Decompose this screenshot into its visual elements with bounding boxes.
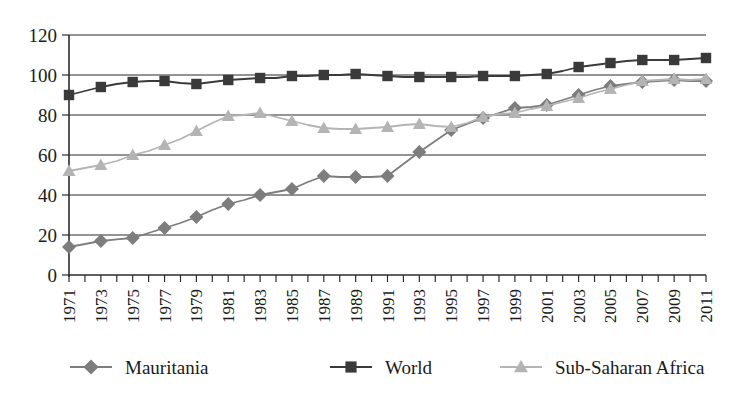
triangle-marker-icon (190, 125, 203, 136)
y-tick-label: 60 (38, 145, 57, 166)
x-tick-label: 1991 (379, 289, 398, 323)
triangle-marker-icon (700, 73, 713, 84)
x-tick-label: 1985 (283, 289, 302, 323)
square-marker-icon (287, 71, 297, 81)
legend-item-mauritania[interactable]: Mauritania (70, 357, 209, 378)
square-marker-icon (605, 58, 615, 68)
diamond-marker-icon (158, 221, 172, 235)
x-tick-label: 2001 (538, 289, 557, 323)
square-marker-icon (382, 71, 392, 81)
x-tick-label: 1993 (410, 289, 429, 323)
square-marker-icon (701, 53, 711, 63)
square-marker-icon (510, 71, 520, 81)
x-tick-label: 1997 (474, 289, 493, 324)
diamond-marker-icon (349, 170, 363, 184)
y-tick-label: 0 (48, 265, 58, 286)
x-tick-label: 1995 (442, 289, 461, 323)
triangle-marker-icon (254, 107, 267, 118)
square-marker-icon (478, 71, 488, 81)
square-marker-icon (64, 90, 74, 100)
x-tick-label: 1981 (219, 289, 238, 323)
square-marker-icon (446, 72, 456, 82)
line-chart: 020406080100120 197119731975197719791981… (0, 0, 732, 399)
diamond-marker-icon (285, 182, 299, 196)
x-tick-label: 1987 (315, 289, 334, 324)
square-marker-icon (345, 361, 356, 372)
x-tick-label: 1983 (251, 289, 270, 323)
x-tick-labels-group: 1971197319751977197919811983198519871989… (60, 289, 716, 324)
diamond-marker-icon (412, 145, 426, 159)
square-marker-icon (255, 73, 265, 83)
x-tick-label: 1973 (92, 289, 111, 323)
x-tick-label: 1977 (156, 289, 175, 324)
diamond-marker-icon (83, 359, 98, 374)
x-tick-label: 2007 (633, 289, 652, 324)
square-marker-icon (542, 69, 552, 79)
diamond-marker-icon (62, 240, 76, 254)
x-tick-label: 2011 (697, 289, 716, 322)
legend-item-sub-saharan-africa[interactable]: Sub-Saharan Africa (500, 357, 705, 378)
x-tick-label: 2003 (570, 289, 589, 323)
diamond-marker-icon (317, 169, 331, 183)
x-axis-group (69, 275, 706, 282)
triangle-marker-icon (413, 118, 426, 129)
legend-label: Mauritania (125, 357, 209, 378)
square-marker-icon (159, 76, 169, 86)
y-tick-label: 80 (38, 105, 57, 126)
diamond-marker-icon (94, 234, 108, 248)
legend-label: Sub-Saharan Africa (555, 357, 705, 378)
square-marker-icon (128, 77, 138, 87)
square-marker-icon (573, 62, 583, 72)
diamond-marker-icon (380, 169, 394, 183)
square-marker-icon (191, 79, 201, 89)
square-marker-icon (96, 82, 106, 92)
y-tick-label: 20 (38, 225, 57, 246)
x-tick-label: 1975 (124, 289, 143, 323)
x-tick-label: 1999 (506, 289, 525, 323)
x-tick-label: 2005 (601, 289, 620, 323)
y-tick-label: 120 (29, 25, 58, 46)
series-mauritania (62, 73, 713, 254)
x-tick-label: 1971 (60, 289, 79, 323)
x-tick-label: 1989 (347, 289, 366, 323)
diamond-marker-icon (253, 188, 267, 202)
series-sub-saharan-africa (63, 73, 713, 176)
square-marker-icon (669, 55, 679, 65)
y-tick-label: 40 (38, 185, 57, 206)
legend-label: World (385, 357, 433, 378)
diamond-marker-icon (221, 197, 235, 211)
square-marker-icon (637, 55, 647, 65)
square-marker-icon (319, 70, 329, 80)
x-tick-label: 1979 (187, 289, 206, 323)
x-tick-label: 2009 (665, 289, 684, 323)
chart-container: 020406080100120 197119731975197719791981… (0, 0, 732, 399)
square-marker-icon (350, 69, 360, 79)
diamond-marker-icon (189, 210, 203, 224)
series-group (62, 53, 713, 254)
legend-item-world[interactable]: World (330, 357, 433, 378)
square-marker-icon (414, 72, 424, 82)
diamond-marker-icon (126, 231, 140, 245)
legend: MauritaniaWorldSub-Saharan Africa (70, 357, 705, 378)
square-marker-icon (223, 75, 233, 85)
y-tick-label: 100 (29, 65, 58, 86)
